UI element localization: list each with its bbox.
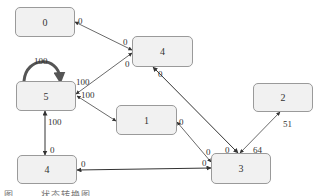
node-label: 5 xyxy=(44,91,49,102)
node-4-bottom: 4 xyxy=(17,155,77,184)
edge-label: 0 xyxy=(78,17,83,26)
node-label: 4 xyxy=(160,46,165,57)
edge-4b-3 xyxy=(77,168,211,170)
edge-label: 100 xyxy=(81,91,95,100)
edge-label: 0 xyxy=(158,70,163,79)
edge-label: 51 xyxy=(283,120,292,129)
edge-label: 0 xyxy=(125,60,130,69)
edge-label: 0 xyxy=(206,148,211,157)
edge-label: 100 xyxy=(48,118,62,127)
node-label: 0 xyxy=(43,17,48,28)
edge-label: 0 xyxy=(50,146,55,155)
edge-label: 0 xyxy=(81,160,86,169)
node-label: 2 xyxy=(281,92,286,103)
node-5: 5 xyxy=(16,81,76,111)
edge-label: 0 xyxy=(225,146,230,155)
node-1: 1 xyxy=(116,105,177,135)
node-4-top: 4 xyxy=(132,36,193,67)
node-3: 3 xyxy=(211,153,271,184)
edge-label: 100 xyxy=(76,78,90,87)
diagram-canvas: 0 4 5 1 2 4 3 0 0 0 100 100 100 0 100 0 … xyxy=(0,0,314,196)
node-label: 4 xyxy=(45,164,50,175)
node-label: 3 xyxy=(239,163,244,174)
figure-caption: 图 . . . 状态转换图 xyxy=(4,188,91,196)
edge-label: 0 xyxy=(202,159,207,168)
self-loop-label: 100 xyxy=(34,57,48,66)
node-0: 0 xyxy=(15,7,75,37)
edge-label: 64 xyxy=(253,146,262,155)
node-2: 2 xyxy=(253,83,313,112)
edge-label: 0 xyxy=(123,38,128,47)
node-label: 1 xyxy=(144,115,149,126)
edge-label: 0 xyxy=(179,118,184,127)
edge-5-4 xyxy=(76,53,132,94)
